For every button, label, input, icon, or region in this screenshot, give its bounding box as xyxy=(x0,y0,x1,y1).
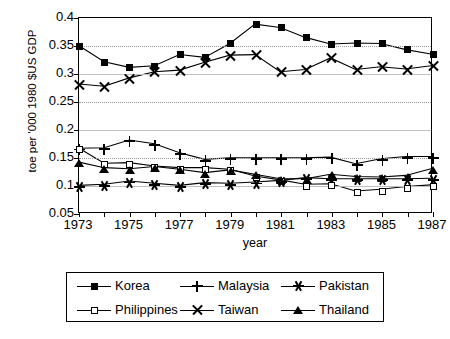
legend-item-taiwan[interactable]: Taiwan xyxy=(180,298,258,322)
legend-line xyxy=(281,310,315,311)
x-tick-label: 1979 xyxy=(208,218,252,232)
y-tick-label: 0.4 xyxy=(34,10,74,23)
x-tick-label: 1983 xyxy=(309,218,353,232)
gridline xyxy=(79,186,431,187)
legend-label: Philippines xyxy=(111,303,178,317)
x-tick-label: 1981 xyxy=(258,218,302,232)
legend-line xyxy=(180,310,214,311)
legend-item-korea[interactable]: Korea xyxy=(77,274,150,298)
x-axis-title: year xyxy=(78,236,432,250)
y-tick-mark xyxy=(74,158,79,159)
plot-area xyxy=(78,17,432,213)
legend-label: Thailand xyxy=(315,303,369,317)
x-tick-mark xyxy=(104,212,105,217)
legend-item-pakistan[interactable]: Pakistan xyxy=(281,274,369,298)
legend-label: Taiwan xyxy=(214,303,258,317)
y-tick-mark xyxy=(74,74,79,75)
y-tick-label: 0.2 xyxy=(34,122,74,135)
x-tick-label: 1987 xyxy=(410,218,450,232)
legend-label: Korea xyxy=(111,279,150,293)
gridline xyxy=(79,158,431,159)
x-tick-mark xyxy=(205,212,206,217)
x-tick-mark xyxy=(307,212,308,217)
y-tick-mark xyxy=(74,102,79,103)
legend-sample xyxy=(180,278,214,294)
y-tick-mark xyxy=(74,46,79,47)
series-line-taiwan xyxy=(79,55,431,87)
chart-legend: KoreaMalaysiaPakistanPhilippinesTaiwanTh… xyxy=(66,272,384,322)
y-tick-label: 0.3 xyxy=(34,66,74,79)
series-line-pakistan xyxy=(79,178,431,186)
legend-sample xyxy=(77,302,111,318)
gridline xyxy=(79,74,431,75)
x-tick-mark xyxy=(256,212,257,217)
gridline xyxy=(79,102,431,103)
y-tick-mark xyxy=(74,186,79,187)
legend-label: Malaysia xyxy=(214,279,269,293)
x-tick-mark xyxy=(408,212,409,217)
series-line-malaysia xyxy=(79,140,431,164)
y-tick-mark xyxy=(74,18,79,19)
x-tick-label: 1973 xyxy=(56,218,100,232)
legend-line xyxy=(281,286,315,287)
x-tick-mark xyxy=(357,212,358,217)
y-tick-label: 0.15 xyxy=(34,150,74,163)
legend-item-malaysia[interactable]: Malaysia xyxy=(180,274,269,298)
y-tick-label: 0.35 xyxy=(34,38,74,51)
y-tick-label: 0.1 xyxy=(34,178,74,191)
series-line-philippines xyxy=(79,148,431,191)
legend-sample xyxy=(180,302,214,318)
gridline xyxy=(79,46,431,47)
legend-line xyxy=(77,310,111,311)
legend-line xyxy=(77,286,111,287)
gridline xyxy=(79,130,431,131)
x-tick-mark xyxy=(155,212,156,217)
x-tick-label: 1977 xyxy=(157,218,201,232)
legend-line xyxy=(180,286,214,287)
series-lines xyxy=(79,18,431,212)
legend-sample xyxy=(281,302,315,318)
legend-sample xyxy=(77,278,111,294)
x-tick-label: 1985 xyxy=(359,218,403,232)
legend-sample xyxy=(281,278,315,294)
legend-item-thailand[interactable]: Thailand xyxy=(281,298,369,322)
legend-label: Pakistan xyxy=(315,279,369,293)
legend-item-philippines[interactable]: Philippines xyxy=(77,298,178,322)
x-tick-label: 1975 xyxy=(107,218,151,232)
x-axis-tick-labels: 19731975197719791981198319851987 xyxy=(78,218,432,236)
y-tick-label: 0.25 xyxy=(34,94,74,107)
chart-root: toe per '000 1980 $US GDP 0.050.10.150.2… xyxy=(0,0,450,339)
y-tick-mark xyxy=(74,130,79,131)
